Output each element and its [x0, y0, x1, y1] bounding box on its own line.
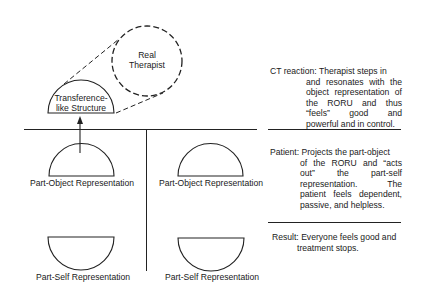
dashed-tangent-lower	[116, 93, 163, 113]
right-part-object-label: Part-Object Representation	[153, 178, 269, 188]
note-patient-body: of the RORU and “acts out” the part-self…	[270, 158, 402, 211]
note-result-lead: Result: Everyone feels good and	[272, 232, 404, 243]
real-therapist-label: Real Therapist	[117, 50, 177, 70]
real-therapist-line1: Real	[117, 50, 177, 60]
note-result: Result: Everyone feels good and treatmen…	[272, 232, 404, 253]
right-part-object-dome	[178, 144, 243, 177]
left-part-object-label: Part-Object Representation	[24, 178, 140, 188]
note-ct-reaction: CT reaction: Therapist steps in and reso…	[270, 66, 402, 130]
arrowhead-icon	[77, 116, 83, 124]
left-part-self-label: Part-Self Representation	[25, 272, 141, 282]
transference-label: Transference- like Structure	[46, 93, 116, 113]
real-therapist-line2: Therapist	[117, 60, 177, 70]
transference-line2: like Structure	[46, 103, 116, 113]
note-patient-lead: Patient: Projects the part-object	[270, 147, 402, 158]
note-ct-lead: CT reaction: Therapist steps in	[270, 66, 402, 77]
left-part-self-bowl	[48, 237, 114, 270]
right-part-self-bowl	[178, 238, 244, 271]
right-part-self-label: Part-Self Representation	[154, 272, 270, 282]
note-result-body: treatment stops.	[272, 243, 404, 254]
note-ct-body: and resonates with the object representa…	[270, 77, 402, 130]
left-part-object-dome	[49, 144, 114, 177]
transference-line1: Transference-	[46, 93, 116, 103]
dashed-tangent-upper	[64, 39, 119, 84]
note-patient: Patient: Projects the part-object of the…	[270, 147, 402, 211]
